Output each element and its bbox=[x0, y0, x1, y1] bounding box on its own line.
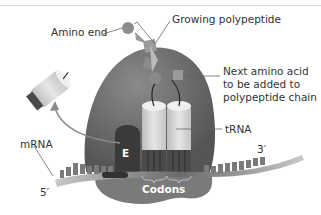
label-mrna: mRNA bbox=[20, 138, 53, 150]
label-growing-polypeptide: Growing polypeptide bbox=[172, 13, 281, 25]
label-e-site: E bbox=[122, 147, 129, 159]
trna-p-site bbox=[142, 101, 166, 172]
label-next-amino-acid-2: to be added to bbox=[223, 78, 300, 90]
label-5-prime: 5′ bbox=[40, 186, 49, 198]
label-amino-end: Amino end bbox=[51, 26, 108, 38]
label-3-prime: 3′ bbox=[257, 143, 266, 155]
label-next-amino-acid-1: Next amino acid bbox=[223, 65, 309, 77]
label-next-amino-acid-3: polypeptide chain bbox=[223, 91, 317, 103]
label-codons: Codons bbox=[142, 183, 185, 195]
label-trna: tRNA bbox=[225, 123, 251, 135]
mrna-channel bbox=[102, 172, 128, 178]
released-trna bbox=[25, 65, 76, 112]
trna-a-site bbox=[167, 101, 191, 172]
